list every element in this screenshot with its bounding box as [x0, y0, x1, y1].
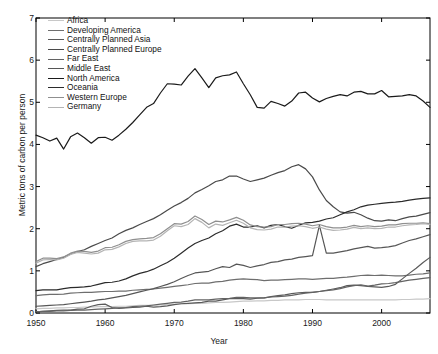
- legend-item: Centrally Planned Europe: [48, 45, 162, 55]
- legend-swatch-icon: [48, 78, 64, 79]
- x-tick-label: 1950: [16, 318, 56, 328]
- legend-swatch-icon: [48, 97, 64, 98]
- x-tick-label: 1960: [85, 318, 125, 328]
- legend-item: Western Europe: [48, 93, 162, 103]
- legend-swatch-icon: [48, 68, 64, 69]
- legend-swatch-icon: [48, 87, 64, 88]
- legend-swatch-icon: [48, 39, 64, 40]
- series-line-developing-america: [36, 273, 430, 296]
- legend-swatch-icon: [48, 107, 64, 108]
- carbon-emissions-line-chart: 01234567 Metric tons of carbon per perso…: [0, 0, 438, 354]
- legend-swatch-icon: [48, 59, 64, 60]
- x-tick-label: 1970: [154, 318, 194, 328]
- legend-swatch-icon: [48, 30, 64, 31]
- legend-swatch-icon: [48, 49, 64, 50]
- x-tick-label: 1980: [223, 318, 263, 328]
- chart-legend: AfricaDeveloping AmericaCentrally Planne…: [48, 16, 162, 112]
- legend-swatch-icon: [48, 20, 64, 21]
- legend-item: North America: [48, 74, 162, 84]
- legend-label: Germany: [67, 102, 101, 112]
- legend-item: Germany: [48, 102, 162, 112]
- series-line-western-europe: [36, 216, 430, 262]
- x-tick-label: 2000: [362, 318, 402, 328]
- series-line-middle-east: [36, 225, 430, 306]
- x-tick-label: 1990: [292, 318, 332, 328]
